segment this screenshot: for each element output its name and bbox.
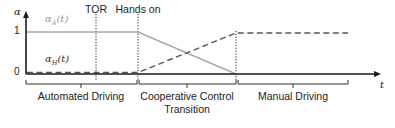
alpha-h-label: αH(t) <box>45 53 69 67</box>
phase-cooperative-line1: Cooperative Control <box>140 90 233 103</box>
brace-manual-driving <box>238 80 348 88</box>
brace-automated-driving <box>26 80 137 88</box>
phase-cooperative-transition-label: Cooperative Control Transition <box>140 90 233 116</box>
alpha-a-arg: (t) <box>56 13 68 24</box>
alpha-h-base: α <box>45 53 52 64</box>
phase-cooperative-line2: Transition <box>140 103 233 116</box>
phase-automated-driving-label: Automated Driving <box>38 90 124 102</box>
y-tick-0: 0 <box>14 66 20 77</box>
y-tick-1: 1 <box>14 25 20 36</box>
y-axis-arrow-icon <box>23 11 29 18</box>
alpha-a-base: α <box>45 13 52 24</box>
alpha-h-curve <box>27 33 348 73</box>
brace-cooperative-transition <box>139 80 236 88</box>
hands-on-label: Hands on <box>116 3 161 15</box>
x-axis-arrow-icon <box>374 71 381 77</box>
phase-manual-driving-label: Manual Driving <box>258 90 328 102</box>
alpha-h-arg: (t) <box>57 53 69 64</box>
alpha-a-label: αA(t) <box>45 13 68 27</box>
x-axis-label: t <box>380 79 384 90</box>
y-axis-label: α <box>14 6 21 17</box>
tor-label: TOR <box>85 3 107 15</box>
